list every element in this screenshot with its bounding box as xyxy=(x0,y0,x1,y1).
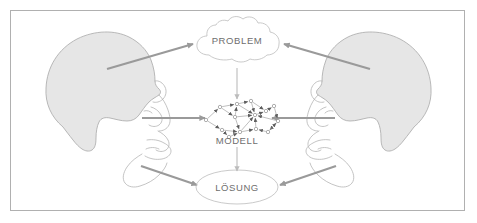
modell-node[interactable]: MODELL xyxy=(204,99,279,145)
graph-node xyxy=(264,109,267,112)
graph-edge xyxy=(253,102,264,109)
loesung-label: LÖSUNG xyxy=(215,182,259,193)
graph-edge xyxy=(222,105,234,107)
problem-node[interactable]: PROBLEM xyxy=(197,17,279,62)
graph-edge xyxy=(242,130,253,132)
graph-edge xyxy=(239,102,248,104)
graph-edge xyxy=(208,109,218,118)
graph-edge xyxy=(224,130,237,131)
graph-node xyxy=(266,130,269,133)
graph-edge xyxy=(275,108,278,118)
graph-node xyxy=(220,128,223,131)
concept-diagram: PROBLEM MODELL LÖSUNG xyxy=(11,11,466,212)
graph-node xyxy=(233,115,236,118)
graph-edge xyxy=(236,119,239,129)
graph-edge xyxy=(252,103,255,112)
graph-node xyxy=(254,127,257,130)
graph-node xyxy=(238,130,241,133)
graph-edge xyxy=(222,108,233,115)
graph-node xyxy=(235,102,238,105)
graph-node xyxy=(253,113,256,116)
graph-edge xyxy=(239,105,253,113)
graph-node xyxy=(249,99,252,102)
graph-edge xyxy=(235,107,236,115)
graph-edge xyxy=(241,117,253,130)
graph-edge xyxy=(255,118,256,127)
modell-label: MODELL xyxy=(216,135,259,146)
graph-node xyxy=(218,105,221,108)
problem-label: PROBLEM xyxy=(212,35,263,46)
graph-edge xyxy=(269,123,276,130)
graph-node xyxy=(204,118,207,121)
figure-frame: PROBLEM MODELL LÖSUNG xyxy=(10,10,465,211)
graph-edge xyxy=(237,115,252,116)
graph-node xyxy=(276,119,279,122)
loesung-node[interactable]: LÖSUNG xyxy=(196,170,278,204)
graph-node xyxy=(272,104,275,107)
graph-edge xyxy=(268,108,272,110)
graph-edge xyxy=(259,130,266,132)
graph-edge xyxy=(257,112,263,114)
network-graph-layer xyxy=(204,99,279,138)
graph-edge xyxy=(208,121,220,128)
